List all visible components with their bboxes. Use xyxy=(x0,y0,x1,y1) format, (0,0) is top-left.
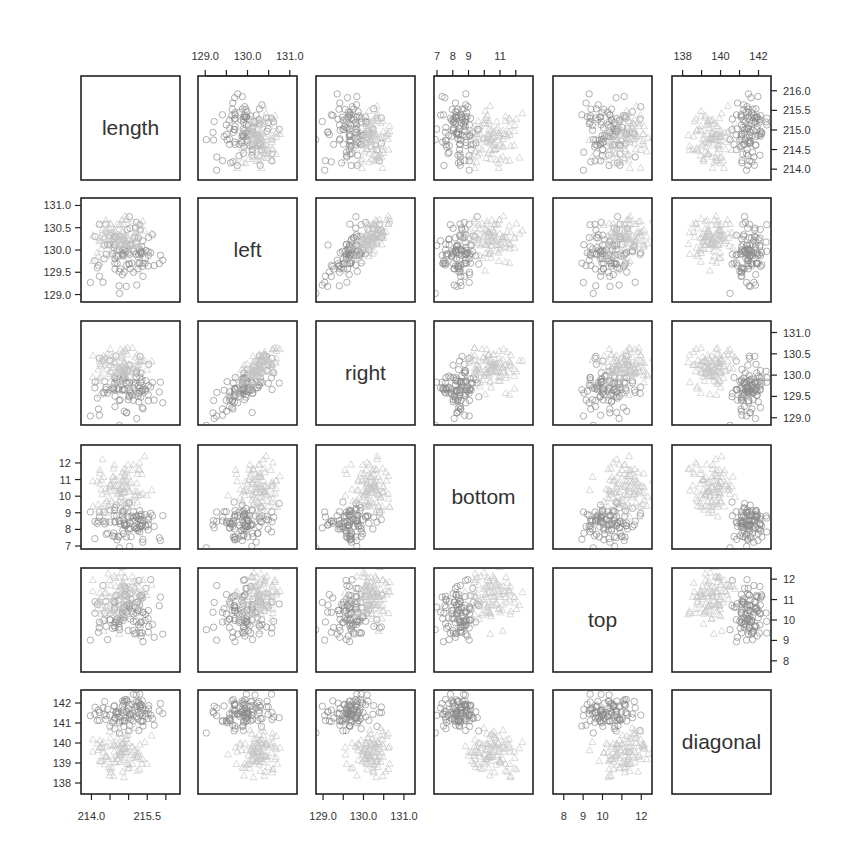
right-axis-length: 214.0214.5215.0215.5216.0 xyxy=(771,85,811,175)
svg-text:130.0: 130.0 xyxy=(43,244,71,256)
scatter-panel-length-vs-diagonal xyxy=(672,76,781,195)
svg-text:8: 8 xyxy=(450,50,456,62)
svg-text:130.5: 130.5 xyxy=(783,348,811,360)
svg-text:130.0: 130.0 xyxy=(783,369,811,381)
scatter-panel-left-vs-top xyxy=(553,198,666,302)
svg-text:140: 140 xyxy=(53,737,71,749)
scatter-panel-diagonal-vs-top xyxy=(553,680,666,794)
svg-text:7: 7 xyxy=(434,50,440,62)
scatter-panel-bottom-vs-diagonal xyxy=(672,445,781,555)
svg-text:7: 7 xyxy=(65,540,71,552)
svg-text:11: 11 xyxy=(783,594,794,606)
svg-text:129.0: 129.0 xyxy=(309,810,337,822)
svg-text:12: 12 xyxy=(635,810,647,822)
right-axis-right: 129.0129.5130.0130.5131.0 xyxy=(771,327,811,424)
svg-text:11: 11 xyxy=(60,474,71,486)
variable-name-diagonal: diagonal xyxy=(682,730,761,753)
svg-text:138: 138 xyxy=(673,50,691,62)
scatter-panel-right-vs-bottom xyxy=(428,321,533,429)
scatter-panel-diagonal-vs-length xyxy=(66,680,180,794)
svg-text:131.0: 131.0 xyxy=(276,50,304,62)
scatter-panel-left-vs-right xyxy=(313,198,415,302)
svg-text:215.5: 215.5 xyxy=(783,104,811,116)
scatter-panel-left-vs-diagonal xyxy=(672,198,781,302)
scatter-panel-top-vs-diagonal xyxy=(672,553,781,672)
diagonal-label-panel-length: length xyxy=(81,76,180,180)
scatter-panel-right-vs-length xyxy=(66,321,180,429)
svg-text:10: 10 xyxy=(59,490,71,502)
scatter-panel-right-vs-top xyxy=(553,321,666,429)
svg-text:142: 142 xyxy=(53,697,71,709)
svg-text:214.0: 214.0 xyxy=(78,810,106,822)
svg-text:9: 9 xyxy=(580,810,586,822)
svg-text:131.0: 131.0 xyxy=(783,327,811,339)
scatter-panel-length-vs-right xyxy=(313,76,415,195)
scatter-panel-diagonal-vs-left xyxy=(198,680,297,794)
svg-text:9: 9 xyxy=(465,50,471,62)
scatter-panel-top-vs-length xyxy=(66,553,180,672)
svg-text:140: 140 xyxy=(711,50,729,62)
variable-name-right: right xyxy=(345,361,386,384)
svg-text:131.0: 131.0 xyxy=(390,810,418,822)
scatter-panel-diagonal-vs-bottom xyxy=(428,680,533,794)
svg-text:129.0: 129.0 xyxy=(191,50,219,62)
svg-text:131.0: 131.0 xyxy=(43,199,71,211)
svg-text:10: 10 xyxy=(596,810,608,822)
bottom-axis-top: 891012 xyxy=(561,794,648,822)
diagonal-label-panel-right: right xyxy=(316,321,415,425)
left-axis-left: 129.0129.5130.0130.5131.0 xyxy=(43,199,81,300)
scatter-panel-top-vs-left xyxy=(198,553,297,672)
diagonal-label-panel-top: top xyxy=(553,568,652,672)
svg-text:130.0: 130.0 xyxy=(234,50,262,62)
svg-text:130.5: 130.5 xyxy=(43,222,71,234)
svg-text:8: 8 xyxy=(783,655,789,667)
variable-name-left: left xyxy=(233,238,261,261)
top-axis-bottom: 78911 xyxy=(434,50,516,76)
svg-text:214.5: 214.5 xyxy=(783,144,811,156)
diagonal-label-panel-left: left xyxy=(198,198,297,302)
svg-text:12: 12 xyxy=(783,573,795,585)
scatter-panel-left-vs-bottom xyxy=(428,198,533,302)
scatter-panel-bottom-vs-top xyxy=(553,445,666,555)
svg-text:11: 11 xyxy=(494,50,505,62)
left-axis-bottom: 789101112 xyxy=(59,457,81,552)
scatter-panel-length-vs-bottom xyxy=(428,76,533,195)
svg-text:129.0: 129.0 xyxy=(43,289,71,301)
scatter-panel-top-vs-bottom xyxy=(428,553,533,672)
variable-name-bottom: bottom xyxy=(451,485,515,508)
svg-text:9: 9 xyxy=(65,507,71,519)
svg-text:10: 10 xyxy=(783,614,795,626)
scatter-panel-right-vs-left xyxy=(198,321,297,429)
top-axis-left: 129.0130.0131.0 xyxy=(191,50,303,76)
svg-text:8: 8 xyxy=(65,523,71,535)
scatter-panel-right-vs-diagonal xyxy=(672,321,781,429)
svg-text:138: 138 xyxy=(53,777,71,789)
svg-text:9: 9 xyxy=(783,634,789,646)
diagonal-label-panel-bottom: bottom xyxy=(434,445,533,549)
variable-name-top: top xyxy=(588,608,617,631)
scatter-panel-left-vs-length xyxy=(66,198,180,302)
top-axis-diagonal: 138140142 xyxy=(673,50,767,76)
variable-name-length: length xyxy=(102,116,159,139)
svg-text:142: 142 xyxy=(749,50,767,62)
scatter-panel-length-vs-left xyxy=(198,76,297,195)
scatter-panel-bottom-vs-right xyxy=(313,445,415,555)
svg-text:12: 12 xyxy=(59,457,71,469)
right-axis-top: 89101112 xyxy=(771,573,795,667)
svg-text:139: 139 xyxy=(53,757,71,769)
bottom-axis-right: 129.0130.0131.0 xyxy=(309,794,417,822)
svg-text:215.0: 215.0 xyxy=(783,124,811,136)
scatter-panel-length-vs-top xyxy=(553,76,666,195)
svg-text:129.5: 129.5 xyxy=(43,266,71,278)
svg-text:129.5: 129.5 xyxy=(783,390,811,402)
scatter-panel-bottom-vs-left xyxy=(198,445,297,555)
svg-text:215.5: 215.5 xyxy=(133,810,161,822)
svg-text:8: 8 xyxy=(561,810,567,822)
svg-text:141: 141 xyxy=(53,717,71,729)
svg-text:130.0: 130.0 xyxy=(350,810,378,822)
scatterplot-matrix: lengthleftrightbottomtopdiagonal129.0130… xyxy=(0,0,858,868)
diagonal-label-panel-diagonal: diagonal xyxy=(672,690,771,794)
svg-text:129.0: 129.0 xyxy=(783,412,811,424)
scatter-panel-bottom-vs-length xyxy=(66,445,180,555)
svg-text:216.0: 216.0 xyxy=(783,85,811,97)
